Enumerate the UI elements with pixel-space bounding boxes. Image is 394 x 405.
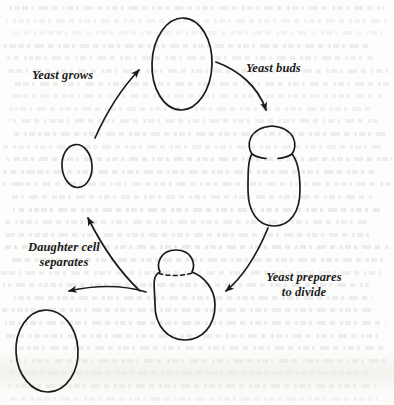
cell-separated-daughter-cell bbox=[14, 308, 80, 393]
arrow-daughter-cell-separates bbox=[69, 287, 146, 292]
label-yeast-buds: Yeast buds bbox=[246, 61, 336, 76]
cell-grown-mother-cell bbox=[150, 17, 213, 111]
division-septum-dashed-line bbox=[159, 273, 194, 276]
label-daughter-cell-separates: Daughter cell separates bbox=[14, 240, 114, 269]
label-yeast-prepares-to-divide: Yeast prepares to divide bbox=[252, 270, 356, 299]
figure-canvas: Yeast grows Yeast buds Daughter cell sep… bbox=[0, 0, 394, 405]
budding-cell-neck-left bbox=[252, 154, 266, 159]
label-yeast-grows: Yeast grows bbox=[32, 68, 127, 83]
cell-budding-cell bbox=[248, 126, 300, 226]
budding-cell-neck-right bbox=[278, 154, 292, 159]
cell-small-daughter-cell bbox=[61, 144, 94, 189]
cell-dividing-cell bbox=[154, 250, 215, 340]
